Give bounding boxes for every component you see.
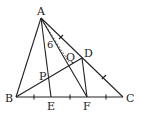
label-q: Q bbox=[66, 51, 75, 64]
segment-ab bbox=[16, 18, 41, 97]
label-e: E bbox=[47, 100, 55, 113]
label-c: C bbox=[126, 92, 134, 105]
label-d: D bbox=[84, 47, 93, 60]
label-f: F bbox=[83, 100, 91, 113]
length-label-aq: 6 bbox=[47, 39, 53, 50]
label-b: B bbox=[5, 92, 13, 105]
label-p: P bbox=[39, 70, 47, 83]
segment-df bbox=[82, 58, 87, 97]
label-a: A bbox=[36, 5, 46, 18]
segment-ac bbox=[41, 18, 123, 97]
segment-ae bbox=[41, 18, 51, 97]
triangle-diagram: A B C D E F P Q 6 bbox=[0, 0, 142, 114]
